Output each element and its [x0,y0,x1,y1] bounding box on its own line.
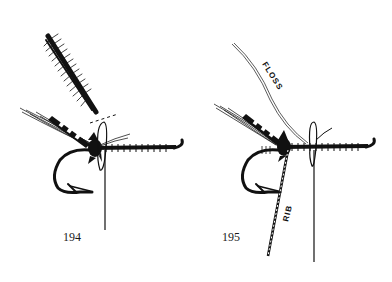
head-hackle-icon [277,130,291,162]
floss-strand-icon [232,43,308,144]
fly-illustration-194 [0,0,196,282]
head-hackle-icon [88,132,102,164]
thread-icon [310,122,333,262]
wing-feather-icon [48,116,90,148]
hook-icon [54,150,92,193]
thread-icon [98,122,107,230]
rib-strand-icon [268,150,288,256]
figure-194: 194 [0,0,196,282]
figure-number-195: 195 [222,230,240,245]
wing-feather-icon [242,114,282,146]
rib-label: RIB [281,204,294,222]
hook-icon [242,150,280,193]
hook-shank-icon [282,139,374,151]
hackle-feather-icon [44,34,96,112]
figure-195: FLOSS [196,0,392,282]
figure-number-194: 194 [63,230,81,245]
